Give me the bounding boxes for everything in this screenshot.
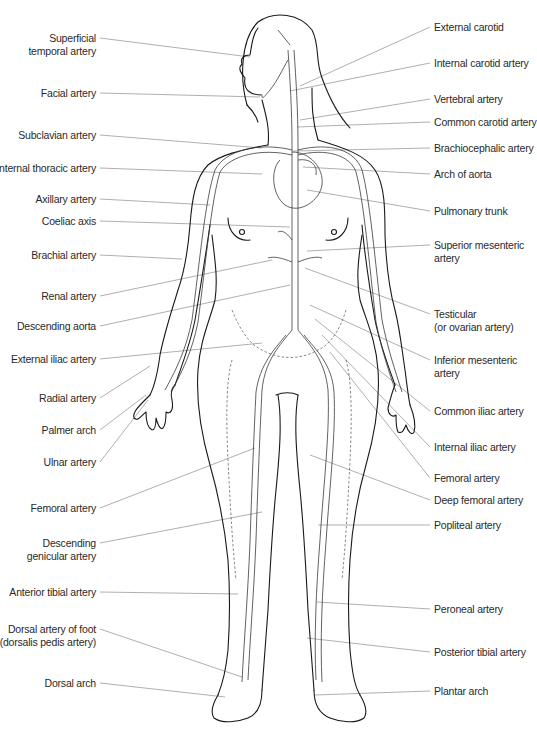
leader-line: [307, 190, 430, 211]
label-text-line: Anterior tibial artery: [9, 586, 96, 599]
label-text-line: Radial artery: [39, 392, 96, 405]
label-text-line: Femoral artery: [31, 502, 96, 515]
label-coeliac-axis: Coeliac axis: [42, 215, 96, 228]
leader-line: [303, 167, 430, 174]
label-text-line: (or ovarian artery): [434, 321, 514, 334]
leader-line: [100, 221, 290, 227]
label-renal-artery: Renal artery: [41, 290, 96, 303]
leader-line: [100, 199, 210, 205]
label-dorsal-arch: Dorsal arch: [45, 677, 96, 690]
leader-line: [100, 629, 242, 677]
label-text-line: Superior mesenteric: [434, 239, 524, 252]
leader-line: [100, 255, 182, 259]
label-popliteal-artery: Popliteal artery: [434, 519, 501, 532]
label-external-carotid: External carotid: [434, 21, 504, 34]
leader-line: [307, 245, 430, 251]
label-internal-thoracic-artery: Internal thoracic artery: [0, 162, 96, 175]
label-text-line: Inferior mesenteric: [434, 354, 517, 367]
label-text-line: External iliac artery: [11, 353, 96, 366]
leader-line: [100, 260, 272, 296]
label-text-line: Posterior tibial artery: [434, 646, 526, 659]
label-text-line: (dorsalis pedis artery): [0, 636, 96, 649]
label-internal-iliac-artery: Internal iliac artery: [434, 441, 516, 454]
leader-line: [317, 602, 430, 609]
label-text-line: Peroneal artery: [434, 603, 503, 616]
label-anterior-tibial-artery: Anterior tibial artery: [9, 586, 96, 599]
leader-line: [100, 400, 148, 462]
label-deep-femoral-artery: Deep femoral artery: [434, 494, 523, 507]
label-internal-carotid-artery: Internal carotid artery: [434, 57, 529, 70]
label-external-iliac-artery: External iliac artery: [11, 353, 96, 366]
leader-line: [310, 305, 430, 360]
leader-line: [100, 38, 250, 57]
label-text-line: Palmer arch: [42, 424, 96, 437]
arteries: [165, 30, 402, 682]
leader-line: [100, 366, 150, 398]
label-descending-genicular-artery: Descendinggenicular artery: [27, 537, 96, 563]
label-radial-artery: Radial artery: [39, 392, 96, 405]
label-text-line: Vertebral artery: [434, 93, 503, 106]
leader-line: [297, 122, 430, 127]
label-text-line: Pulmonary trunk: [434, 205, 507, 218]
label-text-line: Subclavian artery: [18, 129, 96, 142]
label-brachiocephalic-artery: Brachiocephalic artery: [434, 142, 533, 155]
label-text-line: Renal artery: [41, 290, 96, 303]
label-text-line: Testicular: [434, 308, 514, 321]
label-text-line: Facial artery: [41, 87, 96, 100]
label-text-line: Internal iliac artery: [434, 441, 516, 454]
label-text-line: Brachial artery: [31, 249, 96, 262]
leader-line: [310, 455, 430, 500]
label-superficial-temporal-artery: Superficialtemporal artery: [28, 32, 96, 58]
label-text-line: Descending: [27, 537, 96, 550]
leader-line: [100, 512, 262, 543]
leader-line: [100, 395, 146, 430]
label-text-line: Superficial: [28, 32, 96, 45]
label-text-line: Axillary artery: [35, 193, 96, 206]
leader-line: [100, 592, 238, 594]
leader-lines: [100, 27, 430, 697]
label-text-line: Descending aorta: [17, 320, 96, 333]
label-text-line: External carotid: [434, 21, 504, 34]
label-text-line: Dorsal artery of foot: [0, 623, 96, 636]
leader-line: [290, 63, 430, 91]
label-text-line: Coeliac axis: [42, 215, 96, 228]
label-testicular-or-ovarian-artery: Testicular(or ovarian artery): [434, 308, 514, 334]
label-brachial-artery: Brachial artery: [31, 249, 96, 262]
label-common-carotid-artery: Common carotid artery: [434, 116, 537, 129]
label-text-line: Internal thoracic artery: [0, 162, 96, 175]
label-peroneal-artery: Peroneal artery: [434, 603, 503, 616]
label-arch-of-aorta: Arch of aorta: [434, 168, 492, 181]
label-common-iliac-artery: Common iliac artery: [434, 405, 524, 418]
label-superior-mesenteric-artery: Superior mesentericartery: [434, 239, 524, 265]
label-text-line: Common iliac artery: [434, 405, 524, 418]
leader-line: [293, 148, 430, 151]
label-text-line: genicular artery: [27, 550, 96, 563]
skeleton-dashed: [227, 310, 351, 580]
leader-line: [307, 638, 430, 652]
label-inferior-mesenteric-artery: Inferior mesentericartery: [434, 354, 517, 380]
leader-line: [100, 93, 260, 97]
label-text-line: Plantar arch: [434, 685, 488, 698]
label-facial-artery: Facial artery: [41, 87, 96, 100]
label-axillary-artery: Axillary artery: [35, 193, 96, 206]
label-text-line: Arch of aorta: [434, 168, 492, 181]
label-vertebral-artery: Vertebral artery: [434, 93, 503, 106]
label-plantar-arch: Plantar arch: [434, 685, 488, 698]
label-text-line: Popliteal artery: [434, 519, 501, 532]
label-text-line: Internal carotid artery: [434, 57, 529, 70]
label-descending-aorta: Descending aorta: [17, 320, 96, 333]
label-text-line: Brachiocephalic artery: [434, 142, 533, 155]
label-text-line: artery: [434, 367, 517, 380]
leader-line: [100, 683, 225, 697]
leader-line: [315, 319, 430, 411]
leader-line: [100, 448, 255, 508]
leader-line: [100, 168, 262, 174]
label-femoral-artery: Femoral artery: [31, 502, 96, 515]
label-subclavian-artery: Subclavian artery: [18, 129, 96, 142]
label-text-line: Femoral artery: [434, 472, 499, 485]
label-text-line: Common carotid artery: [434, 116, 537, 129]
label-dorsal-artery-of-foot-dorsalis-pedis-artery: Dorsal artery of foot(dorsalis pedis art…: [0, 623, 96, 649]
label-palmer-arch: Palmer arch: [42, 424, 96, 437]
label-text-line: temporal artery: [28, 45, 96, 58]
leader-line: [300, 99, 430, 120]
